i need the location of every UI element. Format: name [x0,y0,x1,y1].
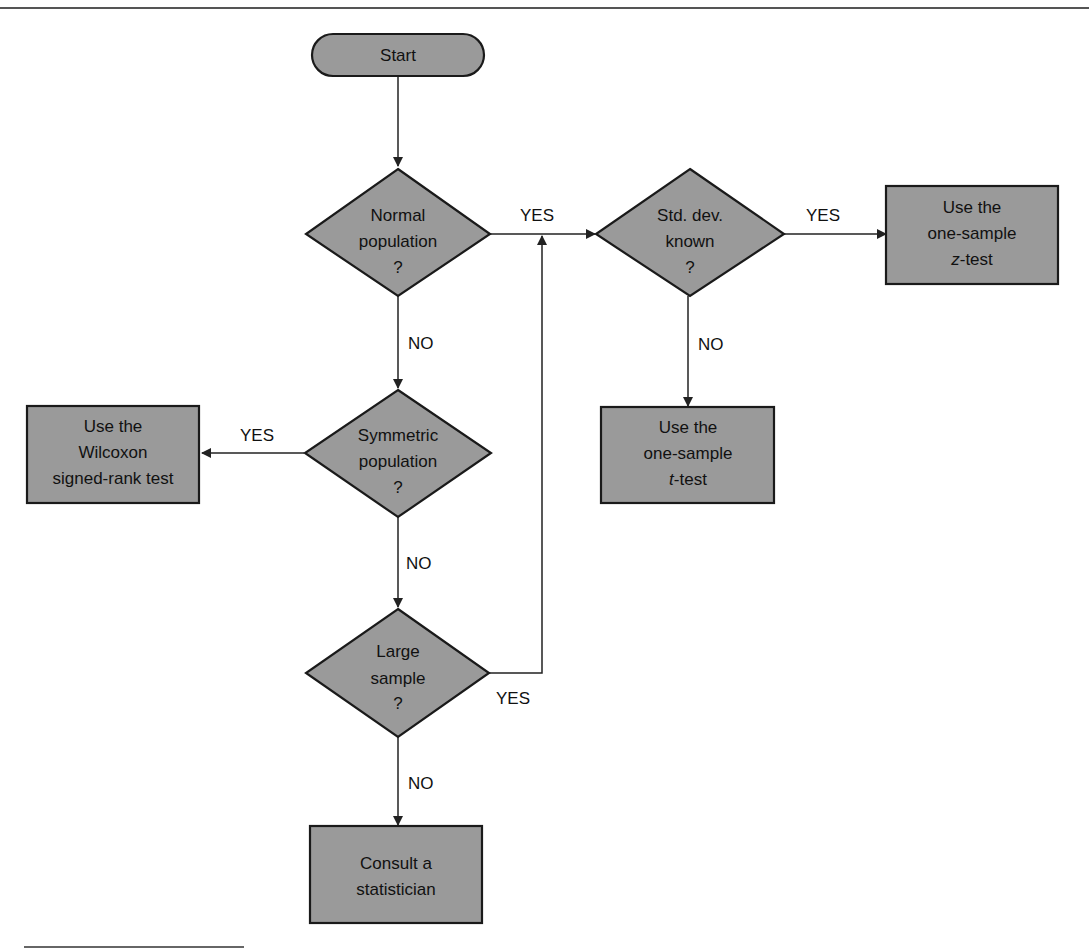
node-stddev-line-2: known [665,232,714,251]
node-start: Start [312,34,484,76]
node-ttest-line-3: t-test [669,470,707,489]
node-ztest-line-1: Use the [943,198,1002,217]
node-consult-statistician: Consult a statistician [310,826,482,923]
edge-label-normal-yes: YES [520,206,554,225]
edge-large-stddev [489,236,542,673]
node-wilcoxon-line-2: Wilcoxon [79,443,148,462]
edge-label-large-no: NO [408,774,434,793]
node-normal-population: Normal population ? [306,169,490,296]
edges: YES NO YES NO YES NO YES NO [202,76,886,825]
process-shape [310,826,482,923]
node-large-line-1: Large [376,642,419,661]
node-ztest-line-2: one-sample [928,224,1017,243]
node-stddev-known: Std. dev. known ? [596,169,784,296]
node-t-test: Use the one-sample t-test [601,407,774,503]
node-consult-line-1: Consult a [360,854,432,873]
node-start-label: Start [380,46,416,65]
node-wilcoxon-line-3: signed-rank test [53,469,174,488]
node-large-sample: Large sample ? [306,609,489,737]
node-wilcoxon-line-1: Use the [84,417,143,436]
edge-label-symmetric-no: NO [406,554,432,573]
node-consult-line-2: statistician [356,880,435,899]
node-normal-line-2: population [359,232,437,251]
node-wilcoxon: Use the Wilcoxon signed-rank test [27,406,199,503]
node-ttest-line-1: Use the [659,418,718,437]
node-symmetric-population: Symmetric population ? [305,390,491,517]
edge-label-symmetric-yes: YES [240,426,274,445]
node-ztest-line-3: z-test [950,250,993,269]
node-normal-line-3: ? [393,258,402,277]
node-symmetric-line-3: ? [393,478,402,497]
node-z-test: Use the one-sample z-test [886,186,1058,284]
node-stddev-line-1: Std. dev. [657,206,723,225]
node-symmetric-line-2: population [359,452,437,471]
edge-label-large-yes: YES [496,689,530,708]
node-normal-line-1: Normal [371,206,426,225]
node-large-line-3: ? [393,694,402,713]
node-ttest-line-2: one-sample [644,444,733,463]
node-symmetric-line-1: Symmetric [358,426,439,445]
flowchart: YES NO YES NO YES NO YES NO Start Normal… [0,0,1089,949]
edge-label-stddev-yes: YES [806,206,840,225]
node-stddev-line-3: ? [685,258,694,277]
edge-label-normal-no: NO [408,334,434,353]
edge-label-stddev-no: NO [698,335,724,354]
node-large-line-2: sample [371,669,426,688]
